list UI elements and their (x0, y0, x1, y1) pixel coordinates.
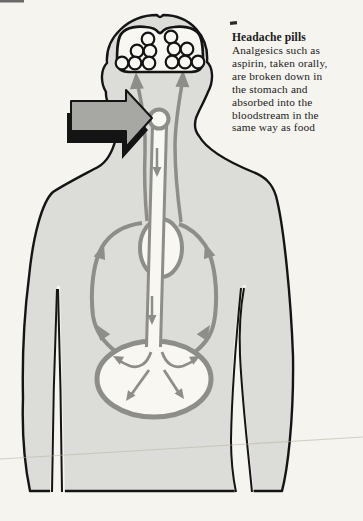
pill-circle (142, 33, 155, 46)
caption-line: the stomach and (232, 83, 362, 96)
caption-line: bloodstream in the (232, 109, 362, 122)
caption-line: Analgesics such as (232, 44, 362, 57)
pill-circle (166, 56, 179, 69)
ink-speck (0, 0, 24, 3)
pill-circle (143, 57, 156, 70)
caption-line: aspirin, taken orally, (232, 57, 362, 70)
caption: Headache pills Analgesics such as aspiri… (232, 31, 362, 134)
pill-circle (192, 56, 205, 69)
caption-line: absorbed into the (232, 96, 362, 109)
caption-line: same way as food (232, 121, 362, 134)
pill-circle (165, 31, 178, 44)
stomach (97, 341, 211, 417)
pill-circle (116, 57, 129, 70)
pill-circle (181, 43, 194, 56)
pill-circle (144, 45, 157, 58)
pill-circle (179, 56, 192, 69)
pill-circle (131, 45, 144, 58)
pill-circle (168, 43, 181, 56)
caption-title: Headache pills (232, 31, 362, 44)
book-page: Headache pills Analgesics such as aspiri… (0, 0, 363, 521)
caption-line: are broken down in (232, 70, 362, 83)
brain-with-pill-particles (116, 27, 205, 72)
pill-circle (129, 57, 142, 70)
ink-speck (230, 21, 237, 25)
